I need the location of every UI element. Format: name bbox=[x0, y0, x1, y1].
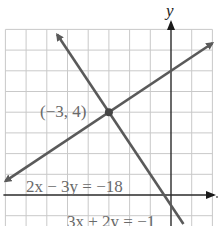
grid bbox=[5, 29, 212, 226]
intersection-label: (−3, 4) bbox=[40, 102, 86, 121]
line-label-2: 3x + 2y = −1 bbox=[67, 212, 155, 226]
x-axis-label-fragment bbox=[216, 196, 218, 198]
system-of-equations-graph: y (−3, 4) 2x − 3y = −18 3x + 2y = −1 bbox=[0, 0, 219, 226]
line-label-1: 2x − 3y = −18 bbox=[26, 177, 123, 196]
labels: y (−3, 4) 2x − 3y = −18 3x + 2y = −1 bbox=[26, 1, 174, 226]
points bbox=[105, 108, 113, 116]
intersection-point bbox=[105, 108, 113, 116]
y-axis-label: y bbox=[164, 1, 174, 20]
